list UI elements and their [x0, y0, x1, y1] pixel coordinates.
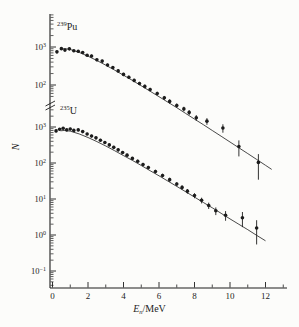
data-point-235U: [116, 148, 120, 152]
y-tick-label: 102: [35, 158, 47, 169]
data-point-239Pu: [85, 53, 89, 57]
pu-element-symbol: Pu: [67, 21, 78, 32]
y-axis-label: N: [11, 139, 21, 155]
data-point-235U: [200, 199, 204, 203]
data-point-239Pu: [187, 111, 191, 115]
x-axis-unit: /MeV: [143, 303, 166, 314]
y-tick-label: 100: [35, 230, 47, 241]
data-point-235U: [72, 129, 76, 133]
data-point-239Pu: [81, 51, 85, 55]
data-point-235U: [207, 204, 211, 208]
data-point-235U: [147, 166, 151, 170]
data-point-235U: [168, 178, 172, 182]
data-point-239Pu: [143, 85, 147, 89]
data-point-235U: [99, 138, 103, 142]
data-point-239Pu: [111, 66, 115, 70]
data-point-235U: [131, 157, 135, 161]
data-point-235U: [61, 127, 65, 131]
data-point-235U: [112, 146, 116, 150]
data-point-235U: [224, 213, 228, 217]
fit-line-239Pu: [61, 49, 272, 170]
x-tick-label: 6: [157, 291, 162, 301]
data-point-239Pu: [106, 63, 110, 67]
data-point-235U: [125, 153, 129, 157]
x-tick-label: 10: [226, 291, 236, 301]
data-point-239Pu: [257, 161, 261, 165]
series-label-pu-239: 239Pu: [57, 21, 77, 32]
data-point-239Pu: [138, 82, 142, 86]
x-tick-label: 0: [50, 291, 55, 301]
x-tick-label: 12: [261, 291, 270, 301]
data-point-239Pu: [116, 69, 120, 73]
data-point-235U: [121, 151, 125, 155]
data-point-235U: [255, 226, 259, 230]
data-point-235U: [141, 163, 145, 167]
u-element-symbol: U: [70, 105, 77, 116]
data-point-239Pu: [237, 145, 241, 149]
data-point-235U: [90, 134, 94, 138]
data-point-235U: [65, 128, 69, 132]
data-point-239Pu: [68, 47, 72, 51]
fission-spectrum-figure: 02468101210210310−1100101102103 239Pu 23…: [0, 0, 299, 327]
fit-line-235U: [61, 130, 266, 240]
data-point-235U: [85, 132, 89, 136]
data-point-235U: [180, 186, 184, 190]
chart-canvas: 02468101210210310−1100101102103: [0, 0, 299, 327]
data-point-239Pu: [63, 48, 67, 52]
data-point-235U: [81, 130, 85, 134]
pu-mass-number: 239: [57, 20, 67, 27]
data-point-235U: [54, 129, 58, 133]
x-tick-label: 4: [121, 291, 126, 301]
data-point-239Pu: [148, 88, 152, 92]
y-tick-label: 102: [35, 80, 47, 91]
data-point-235U: [94, 136, 98, 140]
data-point-239Pu: [175, 104, 179, 108]
series-label-u-235: 235U: [60, 105, 77, 116]
data-point-235U: [175, 182, 179, 186]
x-tick-label: 2: [86, 291, 91, 301]
data-point-239Pu: [194, 116, 198, 120]
data-point-239Pu: [155, 92, 159, 96]
data-point-239Pu: [221, 126, 225, 130]
data-point-235U: [214, 209, 218, 213]
data-point-235U: [76, 128, 80, 132]
data-point-239Pu: [163, 96, 167, 100]
data-point-239Pu: [90, 54, 94, 58]
x-axis-label: En/MeV: [0, 304, 299, 316]
data-point-235U: [193, 194, 197, 198]
data-point-239Pu: [72, 49, 76, 53]
data-point-235U: [154, 170, 158, 174]
y-tick-label: 101: [35, 194, 47, 205]
y-tick-label: 103: [35, 122, 47, 133]
data-point-239Pu: [55, 50, 59, 54]
data-point-239Pu: [132, 79, 136, 83]
data-point-239Pu: [95, 58, 99, 62]
data-point-235U: [186, 189, 190, 193]
data-point-235U: [161, 174, 165, 178]
data-point-235U: [136, 159, 140, 163]
data-point-239Pu: [100, 59, 104, 63]
y-tick-label: 10−1: [31, 266, 46, 277]
data-point-239Pu: [76, 50, 80, 54]
data-point-239Pu: [182, 107, 186, 111]
data-point-235U: [58, 127, 62, 131]
data-point-239Pu: [205, 119, 209, 123]
data-point-239Pu: [60, 47, 64, 51]
data-point-239Pu: [127, 75, 131, 79]
data-point-235U: [108, 143, 112, 147]
y-tick-label: 103: [35, 42, 47, 53]
u-mass-number: 235: [60, 104, 70, 111]
data-point-235U: [68, 127, 72, 131]
data-point-239Pu: [168, 100, 172, 104]
data-point-235U: [103, 141, 107, 145]
data-point-239Pu: [122, 73, 126, 77]
data-point-235U: [241, 216, 245, 220]
x-tick-label: 8: [192, 291, 197, 301]
